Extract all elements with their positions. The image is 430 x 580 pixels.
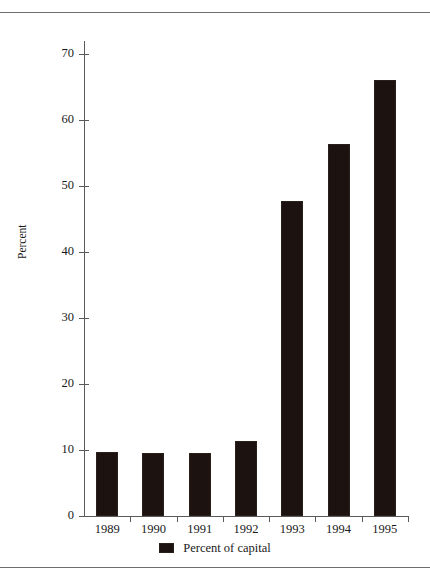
- y-tick-label: 30: [34, 311, 74, 324]
- bar-1992: [235, 441, 257, 516]
- y-axis-line: [84, 41, 85, 516]
- y-tick-label: 60: [34, 113, 74, 126]
- x-tick-label-1994: 1994: [316, 523, 361, 536]
- y-tick-label: 50: [34, 179, 74, 192]
- y-tick-label: 20: [34, 377, 74, 390]
- y-tick-mark: [79, 186, 89, 187]
- x-tick-mark: [362, 516, 363, 522]
- y-tick-label: 70: [34, 47, 74, 60]
- chart-legend: Percent of capital: [0, 542, 430, 555]
- y-axis-title: Percent: [16, 225, 28, 259]
- x-tick-mark: [177, 516, 178, 522]
- y-tick-label: 40: [34, 245, 74, 258]
- bottom-divider: [0, 567, 430, 568]
- bar-1994: [328, 144, 350, 516]
- bar-1995: [374, 80, 396, 516]
- legend-label-percent-of-capital: Percent of capital: [183, 542, 270, 555]
- x-tick-label-1993: 1993: [270, 523, 315, 536]
- bar-1990: [142, 453, 164, 516]
- y-tick-mark: [79, 252, 89, 253]
- x-tick-mark: [269, 516, 270, 522]
- x-tick-label-1992: 1992: [224, 523, 269, 536]
- y-tick-mark: [79, 516, 89, 517]
- x-tick-label-1995: 1995: [362, 523, 407, 536]
- x-tick-mark: [223, 516, 224, 522]
- x-tick-mark: [408, 516, 409, 522]
- bar-1989: [96, 452, 118, 516]
- y-tick-label: 10: [34, 443, 74, 456]
- y-tick-mark: [79, 318, 89, 319]
- x-tick-label-1991: 1991: [177, 523, 222, 536]
- x-tick-mark: [315, 516, 316, 522]
- bar-1991: [189, 453, 211, 516]
- y-tick-mark: [79, 120, 89, 121]
- x-tick-label-1990: 1990: [131, 523, 176, 536]
- y-tick-mark: [79, 54, 89, 55]
- bar-1993: [281, 201, 303, 516]
- x-tick-label-1989: 1989: [85, 523, 130, 536]
- x-axis-line: [84, 516, 409, 517]
- y-tick-mark: [79, 450, 89, 451]
- y-tick-mark: [79, 384, 89, 385]
- legend-swatch-percent-of-capital: [159, 543, 174, 553]
- x-tick-mark: [130, 516, 131, 522]
- y-tick-label: 0: [34, 509, 74, 522]
- bar-chart-figure: Percent 010203040506070 1989199019911992…: [0, 13, 430, 567]
